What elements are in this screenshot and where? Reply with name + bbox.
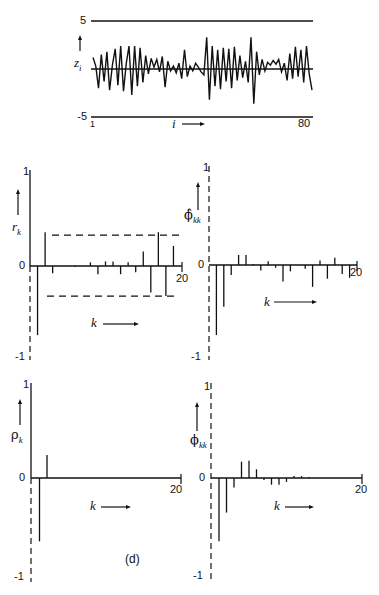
arrow-up-icon [16, 189, 20, 194]
tick-zero: 0 [19, 260, 25, 271]
tick-top: 1 [203, 162, 209, 173]
time-series-line [93, 37, 312, 103]
tick-top: 1 [204, 381, 210, 392]
y-axis-label: ϕ̂kk [184, 208, 201, 221]
x-end-tick: 20 [170, 484, 182, 495]
tick-top: 1 [23, 379, 29, 390]
x-axis-label: k [264, 295, 270, 308]
x-end-tick: 20 [355, 484, 367, 495]
y-axis-label: zi [74, 56, 82, 69]
arrow-right-icon [134, 322, 139, 326]
x-axis-label: k [91, 316, 97, 329]
x-end-label: 80 [298, 118, 310, 129]
x-axis-label: k [90, 499, 96, 512]
tick-bottom: -1 [15, 351, 25, 362]
arrow-right-icon [200, 122, 205, 126]
arrow-up-icon [78, 35, 82, 40]
arrow-right-icon [309, 505, 314, 509]
tick-zero: 0 [199, 472, 205, 483]
tick-zero: 0 [19, 472, 25, 483]
x-start-label: 1 [90, 120, 95, 129]
x-axis-label: k [274, 499, 280, 512]
y-axis-label: rk [12, 220, 21, 233]
y-axis-label: ρk [11, 428, 23, 441]
x-axis-label: i [172, 117, 176, 130]
x-end-tick: 20 [350, 267, 362, 278]
x-end-tick: 20 [176, 273, 188, 284]
tick-bottom: -1 [14, 571, 24, 582]
arrow-up-icon [195, 402, 199, 407]
tick-zero: 0 [198, 259, 204, 270]
tick-bottom: -1 [191, 351, 201, 362]
tick-bottom: -1 [193, 570, 203, 581]
figure-canvas [0, 0, 379, 595]
arrow-right-icon [126, 505, 131, 509]
figure-label: (d) [125, 553, 140, 565]
arrow-up-icon [196, 182, 200, 187]
arrow-right-icon [312, 300, 317, 304]
y-axis-label: ϕkk [190, 433, 207, 446]
y-min-label: -5 [72, 111, 87, 122]
arrow-up-icon [18, 399, 22, 404]
y-max-label: 5 [76, 15, 86, 26]
tick-top: 1 [23, 166, 29, 177]
